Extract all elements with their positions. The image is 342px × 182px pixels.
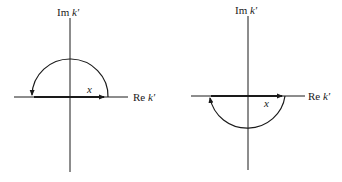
- segment-label: x: [86, 83, 92, 95]
- re-axis-label: Re k': [308, 90, 331, 102]
- right-diagram: Im k' Re k' x: [191, 4, 331, 170]
- left-diagram: Im k' Re k' x: [14, 6, 156, 172]
- im-axis-label: Im k': [57, 6, 80, 18]
- re-axis-label: Re k': [133, 91, 156, 103]
- im-axis-label: Im k': [235, 4, 258, 16]
- segment-label: x: [263, 97, 269, 109]
- contour-diagrams: Im k' Re k' x Im k' Re k' x: [0, 0, 342, 182]
